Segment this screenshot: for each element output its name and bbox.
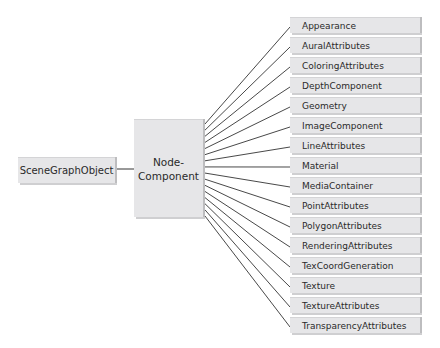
child-box-texture: Texture (290, 277, 420, 293)
child-box-renderingattributes: RenderingAttributes (290, 237, 420, 253)
child-label: TransparencyAttributes (302, 321, 406, 331)
nodecomponent-label-line1: Node- (138, 155, 199, 169)
child-box-transparencyattributes: TransparencyAttributes (290, 317, 420, 333)
child-box-mediacontainer: MediaContainer (290, 177, 420, 193)
child-box-pointattributes: PointAttributes (290, 197, 420, 213)
child-label: Geometry (302, 101, 347, 111)
child-label: AuralAttributes (302, 41, 370, 51)
nodecomponent-label-line2: Component (138, 169, 199, 183)
scenegraphobject-label: SceneGraphObject (20, 165, 114, 176)
scenegraphobject-box: SceneGraphObject (18, 157, 115, 183)
nodecomponent-box: Node- Component (134, 119, 203, 217)
child-box-textureattributes: TextureAttributes (290, 297, 420, 313)
child-box-depthcomponent: DepthComponent (290, 77, 420, 93)
child-label: TexCoordGeneration (302, 261, 393, 271)
child-label: LineAttributes (302, 141, 365, 151)
child-box-polygonattributes: PolygonAttributes (290, 217, 420, 233)
child-box-lineattributes: LineAttributes (290, 137, 420, 153)
child-box-geometry: Geometry (290, 97, 420, 113)
child-label: PointAttributes (302, 201, 369, 211)
child-box-texcoordgeneration: TexCoordGeneration (290, 257, 420, 273)
child-label: TextureAttributes (302, 301, 379, 311)
child-label: Texture (302, 281, 335, 291)
child-label: MediaContainer (302, 181, 373, 191)
child-box-appearance: Appearance (290, 17, 420, 33)
child-box-auralattributes: AuralAttributes (290, 37, 420, 53)
child-label: ColoringAttributes (302, 61, 384, 71)
child-label: RenderingAttributes (302, 241, 392, 251)
child-label: Appearance (302, 21, 356, 31)
child-label: ImageComponent (302, 121, 382, 131)
child-box-imagecomponent: ImageComponent (290, 117, 420, 133)
child-box-material: Material (290, 157, 420, 173)
child-label: Material (302, 161, 339, 171)
child-label: PolygonAttributes (302, 221, 382, 231)
child-label: DepthComponent (302, 81, 382, 91)
child-box-coloringattributes: ColoringAttributes (290, 57, 420, 73)
